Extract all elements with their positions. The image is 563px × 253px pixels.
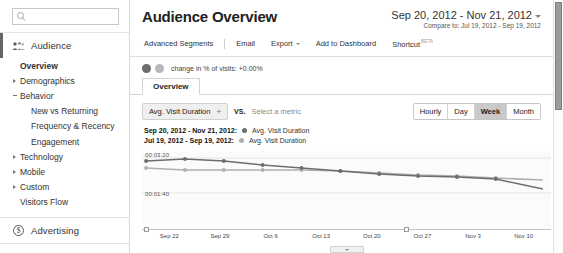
chevron-right-icon bbox=[13, 170, 16, 174]
granularity-selector: Hourly Day Week Month bbox=[413, 103, 541, 120]
sidebar-item-overview-label: Overview bbox=[20, 61, 58, 71]
chevron-down-icon bbox=[296, 43, 300, 45]
sidebar-item-visitors-flow-label: Visitors Flow bbox=[20, 197, 68, 207]
granularity-week[interactable]: Week bbox=[475, 104, 507, 119]
x-tick: Oct 20 bbox=[347, 230, 398, 239]
x-tick: Oct 6 bbox=[245, 230, 296, 239]
legend-item-compare: Jul 19, 2012 - Sep 19, 2012: Avg. Visit … bbox=[144, 137, 551, 144]
chart-svg bbox=[142, 151, 551, 229]
sidebar-item-technology[interactable]: Technology bbox=[0, 149, 129, 164]
people-icon bbox=[12, 40, 25, 51]
scrollbar-thumb[interactable] bbox=[555, 2, 562, 110]
page-title: Audience Overview bbox=[142, 8, 277, 25]
granularity-hourly[interactable]: Hourly bbox=[414, 104, 449, 119]
sidebar-search bbox=[0, 0, 129, 32]
legend-range-primary: Sep 20, 2012 - Nov 21, 2012: bbox=[144, 127, 237, 134]
main-content: Audience Overview Sep 20, 2012 - Nov 21,… bbox=[130, 0, 563, 253]
sidebar-item-engagement[interactable]: Engagement bbox=[0, 134, 129, 149]
page-header: Audience Overview Sep 20, 2012 - Nov 21,… bbox=[130, 0, 563, 35]
chevron-right-icon bbox=[13, 185, 16, 189]
add-to-dashboard-button[interactable]: Add to Dashboard bbox=[308, 37, 384, 50]
granularity-month[interactable]: Month bbox=[507, 104, 540, 119]
segment-dot-compare-icon[interactable] bbox=[155, 64, 164, 73]
search-input[interactable] bbox=[26, 12, 114, 21]
sidebar-item-technology-label: Technology bbox=[20, 152, 63, 162]
legend-metric-compare: Avg. Visit Duration bbox=[249, 137, 306, 144]
segment-dot-primary-icon[interactable] bbox=[142, 64, 151, 73]
shortcut-button[interactable]: ShortcutBETA bbox=[384, 37, 441, 51]
sidebar-item-frequency-recency[interactable]: Frequency & Recency bbox=[0, 119, 129, 134]
sidebar-item-audience[interactable]: Audience bbox=[0, 33, 129, 58]
range-slider-handle-right[interactable] bbox=[404, 227, 409, 232]
beta-badge: BETA bbox=[421, 39, 433, 44]
sidebar-item-new-vs-returning[interactable]: New vs Returning bbox=[0, 104, 129, 119]
legend-range-compare: Jul 19, 2012 - Sep 19, 2012: bbox=[144, 137, 234, 144]
sidebar-item-overview[interactable]: Overview bbox=[0, 58, 129, 73]
vertical-scrollbar[interactable] bbox=[553, 0, 563, 253]
sidebar: Audience Overview Demographics Behavior … bbox=[0, 0, 130, 253]
x-axis-ticks: Sep 22 Sep 29 Oct 6 Oct 13 Oct 20 Oct 27… bbox=[142, 230, 551, 239]
chevron-down-icon bbox=[13, 95, 17, 96]
chevron-right-icon bbox=[13, 79, 16, 83]
sidebar-item-demographics[interactable]: Demographics bbox=[0, 73, 129, 88]
range-slider-handle-left[interactable] bbox=[144, 227, 149, 232]
date-range-compare: Compare to: Jul 19, 2012 - Sep 19, 2012 bbox=[391, 22, 541, 29]
export-button[interactable]: Export bbox=[263, 37, 308, 50]
sidebar-section-audience: Audience Overview Demographics Behavior … bbox=[0, 32, 129, 215]
toolbar-divider bbox=[224, 39, 225, 49]
chart-panel: Avg. Visit Duration + VS. Select a metri… bbox=[130, 95, 563, 247]
chevron-down-icon bbox=[535, 15, 541, 18]
metric-selector-left: Avg. Visit Duration + VS. Select a metri… bbox=[142, 103, 301, 120]
sidebar-item-custom-label: Custom bbox=[20, 182, 49, 192]
advanced-segments-button[interactable]: Advanced Segments bbox=[142, 37, 221, 50]
collapse-chart-button[interactable] bbox=[330, 246, 364, 253]
change-in-visits-text: change in % of visits: +0.00% bbox=[171, 65, 263, 72]
segment-change-row: change in % of visits: +0.00% bbox=[130, 57, 563, 79]
x-axis: Sep 22 Sep 29 Oct 6 Oct 13 Oct 20 Oct 27… bbox=[142, 229, 551, 247]
sidebar-item-mobile-label: Mobile bbox=[20, 167, 45, 177]
legend-dot-compare-icon bbox=[239, 138, 244, 143]
legend-dot-primary-icon bbox=[242, 128, 247, 133]
metric-selector-row: Avg. Visit Duration + VS. Select a metri… bbox=[142, 103, 551, 120]
sidebar-section-advertising: $ Advertising bbox=[0, 217, 129, 244]
sidebar-item-custom[interactable]: Custom bbox=[0, 180, 129, 195]
sidebar-item-advertising-label: Advertising bbox=[31, 225, 79, 236]
date-range-picker[interactable]: Sep 20, 2012 - Nov 21, 2012 Compare to: … bbox=[391, 8, 541, 29]
email-button[interactable]: Email bbox=[228, 37, 263, 50]
tab-overview[interactable]: Overview bbox=[142, 78, 200, 95]
x-tick: Sep 29 bbox=[195, 230, 246, 239]
sidebar-item-behavior-label: Behavior bbox=[20, 91, 54, 101]
analytics-app: Audience Overview Demographics Behavior … bbox=[0, 0, 563, 253]
sidebar-item-new-vs-returning-label: New vs Returning bbox=[31, 106, 98, 116]
legend-item-primary: Sep 20, 2012 - Nov 21, 2012: Avg. Visit … bbox=[144, 127, 551, 134]
search-icon bbox=[17, 12, 26, 21]
y-axis-label-top: 00:03:20 bbox=[145, 152, 169, 158]
line-chart[interactable]: 00:03:20 00:01:40 bbox=[142, 151, 551, 229]
legend-metric-primary: Avg. Visit Duration bbox=[252, 127, 309, 134]
vs-label: VS. bbox=[234, 108, 245, 115]
select-metric-button[interactable]: Select a metric bbox=[251, 107, 301, 116]
date-range-value: Sep 20, 2012 - Nov 21, 2012 bbox=[391, 9, 532, 21]
chevron-down-icon bbox=[345, 249, 349, 251]
shortcut-button-label: Shortcut bbox=[392, 40, 420, 49]
search-box[interactable] bbox=[12, 8, 119, 25]
y-axis-label-bottom: 00:01:40 bbox=[145, 191, 169, 197]
export-button-label: Export bbox=[271, 39, 293, 48]
tab-strip: Overview bbox=[130, 79, 563, 95]
granularity-day[interactable]: Day bbox=[448, 104, 474, 119]
sidebar-item-behavior[interactable]: Behavior bbox=[0, 88, 129, 103]
sidebar-item-mobile[interactable]: Mobile bbox=[0, 164, 129, 179]
sidebar-item-frequency-recency-label: Frequency & Recency bbox=[31, 121, 115, 131]
plus-icon[interactable]: + bbox=[216, 107, 221, 116]
chart-legend: Sep 20, 2012 - Nov 21, 2012: Avg. Visit … bbox=[142, 120, 551, 149]
metric-dropdown[interactable]: Avg. Visit Duration + bbox=[142, 103, 228, 120]
x-tick: Nov 3 bbox=[448, 230, 499, 239]
x-tick: Oct 13 bbox=[296, 230, 347, 239]
sidebar-item-audience-label: Audience bbox=[31, 40, 71, 51]
sidebar-nav-list: Overview Demographics Behavior New vs Re… bbox=[0, 58, 129, 215]
sidebar-item-visitors-flow[interactable]: Visitors Flow bbox=[0, 195, 129, 210]
sidebar-item-advertising[interactable]: $ Advertising bbox=[0, 218, 129, 243]
sidebar-item-demographics-label: Demographics bbox=[20, 76, 75, 86]
x-tick: Nov 10 bbox=[498, 230, 549, 239]
sidebar-item-engagement-label: Engagement bbox=[31, 137, 79, 147]
